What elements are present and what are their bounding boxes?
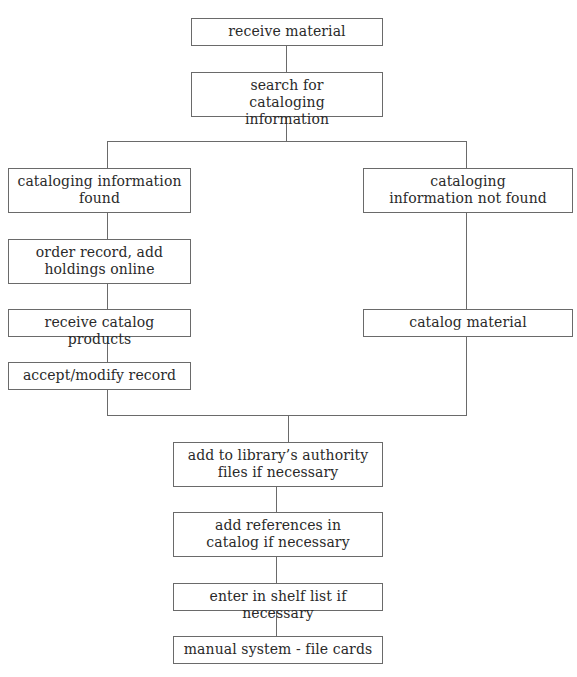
node-order-record: order record, add holdings online — [8, 239, 191, 284]
connector-branch-to-not-found — [466, 141, 467, 168]
connector-branch-to-found — [107, 141, 108, 168]
node-enter-in-shelf-list: enter in shelf list if necessary — [173, 583, 383, 611]
connector-not-found-to-catalog — [466, 212, 467, 309]
node-label: receive catalog products — [45, 314, 155, 347]
node-label: catalog material — [409, 314, 527, 330]
node-receive-material: receive material — [191, 18, 383, 46]
node-label: accept/modify record — [23, 367, 176, 383]
node-add-references-in-catalog: add references in catalog if necessary — [173, 512, 383, 557]
connector-references-to-shelf — [276, 556, 277, 583]
node-label: add to library’s authority files if nece… — [188, 447, 369, 480]
connector-authority-to-references — [276, 486, 277, 512]
node-add-to-authority-files: add to library’s authority files if nece… — [173, 442, 383, 487]
merge-line — [107, 415, 467, 416]
node-label: add references in catalog if necessary — [206, 517, 349, 550]
node-label: receive material — [228, 23, 345, 39]
node-search-cataloging-information: search for cataloging information — [191, 72, 383, 117]
node-accept-modify-record: accept/modify record — [8, 362, 191, 390]
node-label: search for cataloging information — [245, 77, 329, 127]
node-cataloging-information-found: cataloging information found — [8, 168, 191, 213]
connector-merge-to-authority — [288, 415, 289, 442]
node-label: cataloging information found — [17, 173, 181, 206]
branch-split-line — [107, 141, 466, 142]
connector-accept-to-merge — [107, 389, 108, 415]
node-label: order record, add holdings online — [36, 244, 163, 277]
node-manual-system-file-cards: manual system - file cards — [173, 636, 383, 664]
connector-receive-to-search — [286, 45, 287, 72]
connector-order-to-receive-products — [107, 283, 108, 309]
connector-found-to-order — [107, 212, 108, 239]
node-receive-catalog-products: receive catalog products — [8, 309, 191, 337]
node-label: manual system - file cards — [184, 641, 373, 657]
node-label: cataloging information not found — [389, 173, 547, 206]
node-catalog-material: catalog material — [363, 309, 573, 337]
connector-catalog-to-merge — [466, 336, 467, 415]
node-cataloging-information-not-found: cataloging information not found — [363, 168, 573, 213]
node-label: enter in shelf list if necessary — [210, 588, 347, 621]
